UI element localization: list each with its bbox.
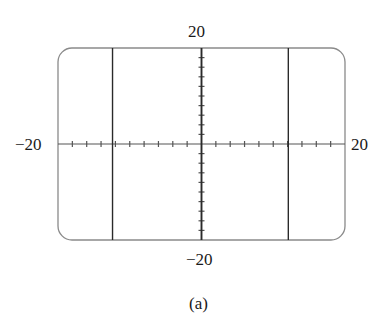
x-axis-max-label: 20 (351, 136, 368, 153)
figure-caption: (a) (189, 295, 208, 312)
plot-area (0, 0, 390, 325)
graph-figure: 20 −20 −20 20 (a) (0, 0, 390, 325)
y-axis-min-label: −20 (186, 251, 213, 268)
y-axis-max-label: 20 (188, 23, 205, 40)
x-axis-min-label: −20 (15, 136, 42, 153)
